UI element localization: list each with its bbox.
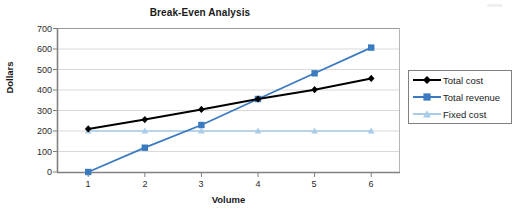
legend-label: Total cost [441,75,483,86]
legend-label: Total revenue [441,92,500,103]
triangle-marker-icon [413,107,441,121]
series-total-revenue [85,44,374,175]
y-axis-ticks [53,29,57,173]
axis-lines [57,28,400,173]
series-fixed-cost [85,128,375,134]
series-total-cost [85,75,375,133]
legend-item-fixed-cost[interactable]: Fixed cost [413,106,486,122]
legend-item-total-revenue[interactable]: Total revenue [413,89,500,105]
scan-artifact [487,4,503,7]
legend-label: Fixed cost [441,109,486,120]
gridlines [57,29,400,152]
chart-legend: Total cost Total revenue Fixed cost [408,70,512,124]
square-marker-icon [413,90,441,104]
break-even-chart: Break-Even Analysis Dollars Volume 700 6… [0,0,522,214]
diamond-marker-icon [413,73,441,87]
legend-item-total-cost[interactable]: Total cost [413,72,483,88]
